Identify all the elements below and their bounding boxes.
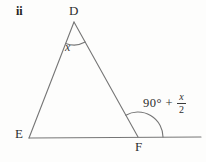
- fraction-denominator: 2: [179, 104, 184, 115]
- fraction-numerator: x: [177, 92, 185, 104]
- angle-f-prefix: 90° +: [143, 96, 173, 111]
- angle-label-f: 90° + x 2: [143, 92, 186, 115]
- vertex-label-d: D: [69, 4, 78, 17]
- vertex-label-f: F: [135, 140, 142, 153]
- item-label: ii: [16, 5, 23, 18]
- angle-f-fraction: x 2: [177, 92, 185, 115]
- triangle-drawing: [0, 0, 206, 162]
- side-df: [74, 22, 138, 137]
- base-line-ef-extended: [29, 137, 201, 138]
- geometry-diagram: ii D E F x 90° + x 2: [0, 0, 206, 162]
- angle-label-d: x: [65, 41, 70, 54]
- vertex-label-e: E: [15, 127, 23, 140]
